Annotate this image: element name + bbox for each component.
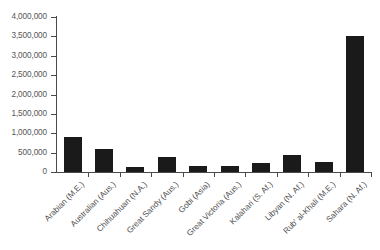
x-axis-tick [340,173,341,177]
bar [221,166,239,172]
x-axis-tick [88,173,89,177]
x-axis-tick [277,173,278,177]
bar-slot [183,17,214,172]
bar-slot [57,17,88,172]
bar-slot [340,17,371,172]
x-axis-tick-label: Arabian (M.E.) [23,180,86,243]
y-axis-tick-label: 1,500,000 [11,110,47,118]
bar-slot [151,17,182,172]
y-axis-tick-label: 3,500,000 [11,32,47,40]
bar [283,155,301,172]
bar [346,36,364,172]
bar [158,157,176,173]
bar [64,137,82,172]
x-axis-tick [214,173,215,177]
bar-chart: 4,000,0003,500,0003,000,0002,500,0002,00… [0,0,380,250]
y-axis-tick-label: 1,000,000 [11,129,47,137]
x-axis-tick [308,173,309,177]
y-axis-tick-label: 500,000 [18,149,47,157]
x-axis-tick [245,173,246,177]
bar-slot [277,17,308,172]
bar [95,149,113,172]
bar [189,166,207,172]
bar-slot [245,17,276,172]
y-axis-tick-label: 2,000,000 [11,91,47,99]
bar-slot [308,17,339,172]
y-axis-tick-label: 3,000,000 [11,52,47,60]
x-axis-tick [371,173,372,177]
x-axis-tick [183,173,184,177]
bar-slot [88,17,119,172]
y-axis-tick-label: 0 [43,168,47,176]
x-axis-tick [151,173,152,177]
y-axis-tick-label: 4,000,000 [11,13,47,21]
y-axis-tick [51,172,57,173]
y-axis-tick-label: 2,500,000 [11,71,47,79]
bar [126,167,144,172]
x-axis-tick [120,173,121,177]
bar-slot [214,17,245,172]
bars-layer [57,17,371,172]
bar-slot [120,17,151,172]
bar [315,162,333,172]
bar [252,163,270,172]
